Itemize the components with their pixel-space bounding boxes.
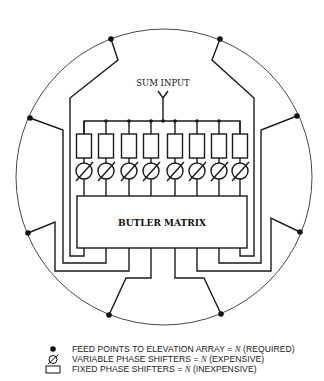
channels [76, 121, 249, 196]
fixed-phase-shifter-icon [190, 134, 205, 158]
butler-matrix-diagram: SUM INPUT BUTLER MATRIX [0, 0, 324, 381]
feed-point-icon [27, 115, 33, 121]
legend-suffix: (INEXPENSIVE) [190, 364, 256, 374]
feed-point-icon [108, 36, 114, 42]
sum-input-label: SUM INPUT [136, 78, 190, 88]
channel [76, 121, 93, 196]
legend-suffix: (EXPENSIVE) [207, 354, 264, 364]
fixed-phase-shifter-icon [122, 134, 137, 158]
butler-matrix-label: BUTLER MATRIX [118, 218, 206, 228]
legend-item-variable-phase-shifters: VARIABLE PHASE SHIFTERS = N (EXPENSIVE) [40, 354, 324, 364]
filled-dot-icon [45, 344, 61, 354]
legend: FEED POINTS TO ELEVATION ARRAY = N (REQU… [40, 344, 324, 374]
fixed-phase-shifter-icon [77, 134, 92, 158]
feed-point-icon [218, 311, 224, 317]
feed-point-icon [25, 230, 31, 236]
channel [121, 121, 138, 196]
legend-suffix: (REQUIRED) [241, 344, 295, 354]
legend-item-feed-points: FEED POINTS TO ELEVATION ARRAY = N (REQU… [40, 344, 324, 354]
fixed-phase-shifter-icon [144, 134, 159, 158]
channel [98, 121, 115, 196]
variable-phase-shifter-icon [45, 354, 61, 364]
legend-text: VARIABLE PHASE SHIFTERS = [72, 354, 201, 364]
feed-point-icon [217, 36, 223, 42]
distribution-bus [84, 121, 240, 134]
feed-point-icon [106, 312, 112, 318]
fixed-phase-shifter-icon [99, 134, 114, 158]
channel [143, 121, 160, 196]
channel [232, 121, 249, 196]
legend-text: FIXED PHASE SHIFTERS = [72, 364, 185, 374]
channel [211, 121, 228, 196]
channel [189, 121, 206, 196]
feed-point-icon [294, 113, 300, 119]
legend-text: FEED POINTS TO ELEVATION ARRAY = [72, 344, 235, 354]
array-circle [16, 29, 312, 325]
feed-point-icon [297, 229, 303, 235]
channel [167, 121, 184, 196]
fixed-phase-shifter-icon [212, 134, 227, 158]
sum-input-port [158, 91, 168, 121]
fixed-phase-shifter-icon [45, 364, 61, 374]
legend-item-fixed-phase-shifters: FIXED PHASE SHIFTERS = N (INEXPENSIVE) [40, 364, 324, 374]
fixed-phase-shifter-icon [233, 134, 248, 158]
fixed-phase-shifter-icon [168, 134, 183, 158]
